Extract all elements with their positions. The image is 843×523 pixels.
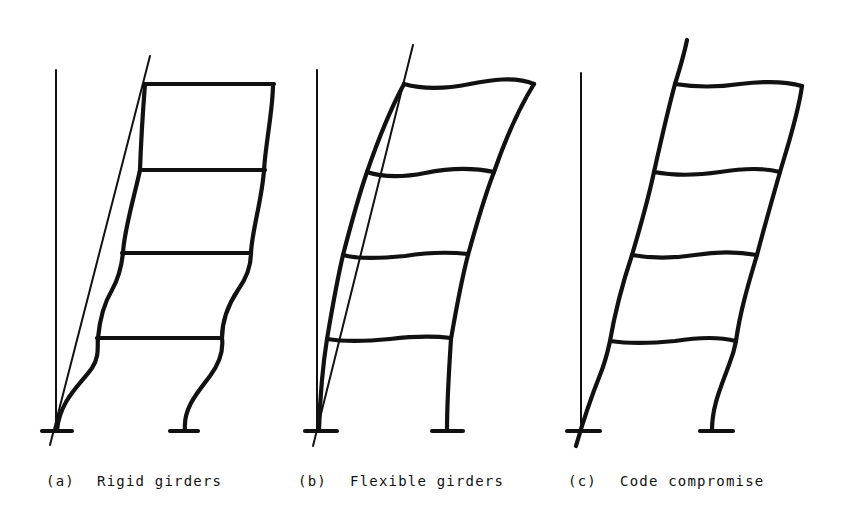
- panel-c-girder-2: [632, 252, 757, 257]
- panel-b-girder-1: [327, 337, 451, 341]
- panel-b-chord-line: [313, 45, 413, 446]
- panel-c-right-column: [712, 86, 802, 430]
- panel-b-tag: (b): [298, 473, 327, 489]
- panel-c-left-column: [576, 40, 687, 446]
- panel-c-girder-1: [610, 338, 736, 343]
- panel-b-roof-girder: [404, 79, 534, 87]
- panel-a-caption: Rigid girders: [97, 473, 222, 489]
- panel-a-rigid-girders: [42, 56, 274, 445]
- deflected-frames-figure: (a) Rigid girders (b) Flexible girders (…: [0, 0, 843, 523]
- panel-c-girder-3: [654, 169, 780, 175]
- panel-c-roof-girder: [675, 82, 802, 87]
- panel-b-caption: Flexible girders: [350, 473, 504, 489]
- panel-a-chord-line: [50, 56, 150, 445]
- panel-c-code-compromise: [567, 40, 802, 446]
- panel-b-girder-3: [367, 169, 494, 176]
- panel-a-left-column: [57, 84, 145, 430]
- panel-c-tag: (c): [568, 473, 597, 489]
- panel-c-caption: Code compromise: [620, 473, 764, 489]
- panel-a-tag: (a): [46, 473, 75, 489]
- panel-a-right-column: [185, 84, 273, 430]
- panel-b-right-column: [447, 84, 534, 430]
- panel-b-flexible-girders: [305, 45, 534, 446]
- captions: (a) Rigid girders (b) Flexible girders (…: [46, 473, 764, 489]
